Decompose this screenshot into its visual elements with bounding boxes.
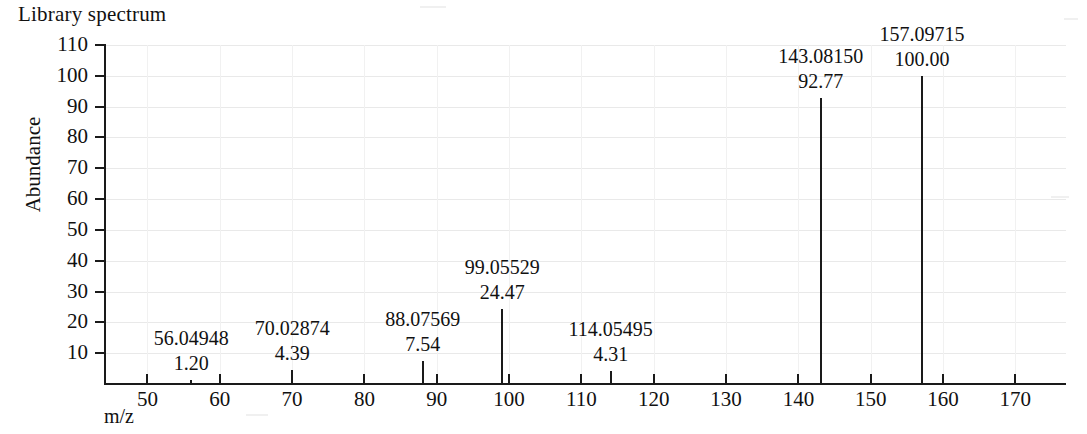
peak-line <box>501 309 503 384</box>
peak-line <box>820 98 822 384</box>
peak-mass-value: 157.09715 <box>832 22 1012 47</box>
x-axis-tick-label: 150 <box>841 388 901 410</box>
y-axis-tick-label: 30 <box>40 281 88 302</box>
y-axis-tick-label: 100 <box>40 65 88 86</box>
x-axis-tick <box>725 374 727 385</box>
peak-line <box>610 371 612 384</box>
y-axis-line <box>104 44 106 385</box>
y-axis-tick-label: 50 <box>40 219 88 240</box>
x-axis-tick <box>653 374 655 385</box>
x-axis-tick-label: 50 <box>117 388 177 410</box>
x-axis-tick <box>146 374 148 385</box>
x-axis-tick-label: 100 <box>479 388 539 410</box>
y-axis-tick-label: 10 <box>40 342 88 363</box>
paper-speckle <box>420 6 446 8</box>
gridline-vertical <box>943 45 944 384</box>
x-axis-tick-label: 160 <box>913 388 973 410</box>
x-axis-tick-label: 130 <box>696 388 756 410</box>
peak-line <box>422 361 424 384</box>
y-axis-tick <box>95 291 105 293</box>
x-axis-tick <box>291 374 293 385</box>
gridline-vertical <box>581 45 582 384</box>
peak-line <box>921 76 923 384</box>
paper-speckle <box>1064 18 1078 20</box>
x-axis-tick-label: 140 <box>768 388 828 410</box>
x-axis-tick <box>1014 374 1016 385</box>
gridline-vertical <box>292 45 293 384</box>
paper-speckle <box>1051 196 1069 198</box>
page-title: Library spectrum <box>18 2 166 26</box>
y-axis-tick <box>95 106 105 108</box>
x-axis-tick <box>580 374 582 385</box>
x-axis-tick <box>508 374 510 385</box>
x-axis-tick-label: 60 <box>190 388 250 410</box>
spectrum-figure: Library spectrum Abundance m/z 102030405… <box>0 0 1087 434</box>
x-axis-tick <box>436 374 438 385</box>
y-axis-tick-label: 80 <box>40 126 88 147</box>
x-axis-tick-label: 80 <box>334 388 394 410</box>
gridline-vertical <box>509 45 510 384</box>
gridline-horizontal <box>104 45 1066 46</box>
y-axis-tick <box>95 75 105 77</box>
x-axis-tick <box>219 374 221 385</box>
y-axis-tick <box>95 229 105 231</box>
plot-area <box>104 45 1066 384</box>
gridline-vertical <box>147 45 148 384</box>
y-axis-tick-label: 60 <box>40 188 88 209</box>
gridline-vertical <box>726 45 727 384</box>
y-axis-tick <box>95 198 105 200</box>
x-axis-tick-label: 120 <box>624 388 684 410</box>
x-axis-tick-label: 70 <box>262 388 322 410</box>
gridline-vertical <box>437 45 438 384</box>
y-axis-tick <box>95 260 105 262</box>
gridline-vertical <box>798 45 799 384</box>
x-axis-tick <box>363 374 365 385</box>
gridline-vertical <box>220 45 221 384</box>
y-axis-tick <box>95 167 105 169</box>
x-axis-tick-label: 170 <box>985 388 1045 410</box>
y-axis-tick <box>95 352 105 354</box>
x-axis-tick <box>797 374 799 385</box>
y-axis-tick <box>95 44 105 46</box>
paper-speckle <box>246 414 268 416</box>
y-axis-tick <box>95 321 105 323</box>
y-axis-tick-label: 90 <box>40 96 88 117</box>
x-axis-tick <box>870 374 872 385</box>
y-axis-tick <box>95 136 105 138</box>
y-axis-tick-label: 20 <box>40 311 88 332</box>
y-axis-tick-label: 70 <box>40 157 88 178</box>
y-axis-tick-label: 40 <box>40 250 88 271</box>
x-axis-tick <box>942 374 944 385</box>
x-axis-tick-label: 110 <box>551 388 611 410</box>
x-axis-tick-label: 90 <box>407 388 467 410</box>
gridline-vertical <box>654 45 655 384</box>
gridline-vertical <box>1015 45 1016 384</box>
gridline-vertical <box>364 45 365 384</box>
y-axis-tick-label: 110 <box>40 34 88 55</box>
gridline-vertical <box>871 45 872 384</box>
x-axis-line <box>104 383 1066 385</box>
